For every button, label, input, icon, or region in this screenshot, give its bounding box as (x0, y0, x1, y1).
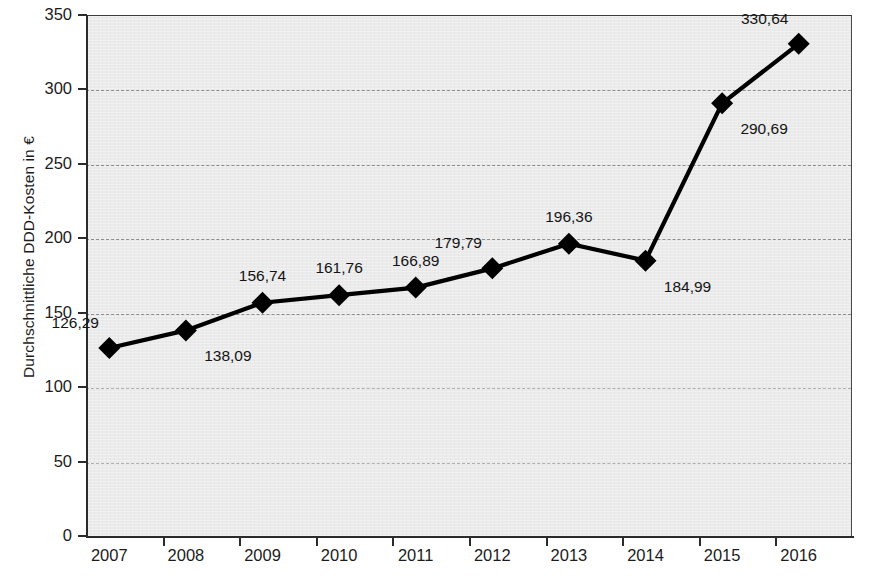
y-tick-mark-250 (78, 163, 87, 165)
y-tick-label-250: 250 (12, 154, 72, 173)
x-tick-label-2009: 2009 (223, 546, 303, 565)
x-tick-label-2013: 2013 (529, 546, 609, 565)
y-axis-line (86, 15, 88, 538)
gridline-300 (86, 90, 851, 91)
x-tick-mark-6 (622, 537, 624, 546)
gridline-250 (86, 165, 851, 166)
x-tick-label-2012: 2012 (452, 546, 532, 565)
y-tick-label-100: 100 (12, 377, 72, 396)
x-tick-mark-3 (392, 537, 394, 546)
value-label-2009: 156,74 (239, 267, 286, 285)
x-tick-label-2008: 2008 (146, 546, 226, 565)
value-label-2013: 196,36 (545, 208, 592, 226)
value-label-2007: 126,29 (52, 314, 99, 332)
x-tick-mark-5 (546, 537, 548, 546)
value-label-2012: 179,79 (435, 234, 482, 252)
value-label-2014: 184,99 (664, 278, 711, 296)
value-label-2010: 161,76 (315, 259, 362, 277)
x-tick-mark-2 (316, 537, 318, 546)
x-tick-mark-8 (775, 537, 777, 546)
x-tick-mark-4 (469, 537, 471, 546)
x-tick-mark-1 (239, 537, 241, 546)
y-tick-mark-0 (78, 535, 87, 537)
plot-area (86, 15, 852, 536)
x-tick-mark-7 (699, 537, 701, 546)
y-tick-label-200: 200 (12, 228, 72, 247)
y-tick-mark-350 (78, 14, 87, 16)
gridline-100 (86, 388, 851, 389)
gridline-50 (86, 463, 851, 464)
value-label-2008: 138,09 (204, 347, 251, 365)
y-tick-mark-100 (78, 386, 87, 388)
value-label-2011: 166,89 (392, 252, 439, 270)
x-tick-label-2014: 2014 (606, 546, 686, 565)
x-tick-label-2010: 2010 (299, 546, 379, 565)
y-tick-label-0: 0 (12, 526, 72, 545)
line-chart: Durchschnittliche DDD-Kosten in € 050100… (0, 0, 873, 585)
y-tick-mark-200 (78, 237, 87, 239)
y-tick-label-350: 350 (12, 5, 72, 24)
y-axis-title: Durchschnittliche DDD-Kosten in € (20, 92, 38, 422)
y-tick-mark-300 (78, 88, 87, 90)
x-tick-mark-0 (163, 537, 165, 546)
gridline-150 (86, 314, 851, 315)
y-tick-mark-50 (78, 461, 87, 463)
x-tick-label-2016: 2016 (759, 546, 839, 565)
y-tick-label-50: 50 (12, 452, 72, 471)
y-tick-label-300: 300 (12, 79, 72, 98)
x-tick-label-2011: 2011 (376, 546, 456, 565)
x-tick-label-2007: 2007 (69, 546, 149, 565)
value-label-2016: 330,64 (741, 10, 788, 28)
x-tick-label-2015: 2015 (682, 546, 762, 565)
value-label-2015: 290,69 (740, 120, 787, 138)
